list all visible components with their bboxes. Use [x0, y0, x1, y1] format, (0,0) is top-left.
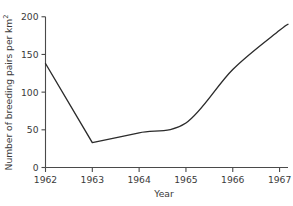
x-tick-label: 1964 [127, 174, 151, 185]
breeding-pairs-line-chart: Number of breeding pairs per km2 Year 05… [0, 0, 293, 206]
y-tick-label: 50 [27, 124, 39, 135]
x-tick-label-group: 196219631964196519661967 [34, 174, 292, 185]
x-tick-label: 1966 [221, 174, 245, 185]
y-tick-label: 100 [21, 87, 39, 98]
plot-area: 050100150200 196219631964196519661967 [0, 0, 293, 206]
y-tick-label: 0 [33, 162, 39, 173]
x-tick-label: 1965 [174, 174, 198, 185]
y-tick-mark-group [42, 17, 46, 168]
x-tick-label: 1963 [81, 174, 105, 185]
y-tick-label-group: 050100150200 [21, 11, 39, 173]
data-series-line [46, 24, 289, 142]
x-tick-mark-group [46, 168, 280, 173]
x-tick-label: 1962 [34, 174, 57, 185]
y-tick-label: 150 [21, 49, 39, 60]
x-tick-label: 1967 [268, 174, 292, 185]
y-tick-label: 200 [21, 11, 39, 22]
